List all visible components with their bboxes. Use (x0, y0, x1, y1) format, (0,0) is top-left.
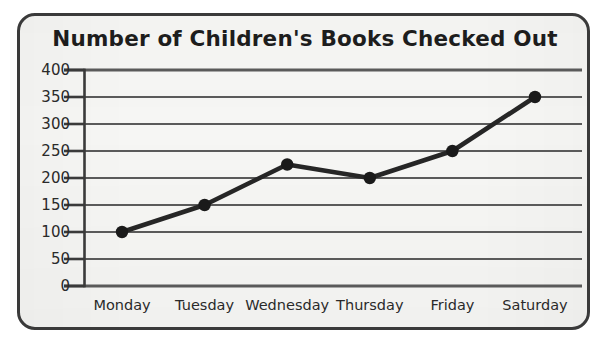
x-axis-label-monday: Monday (93, 297, 150, 313)
worksheet-canvas: Number of Children's Books Checked Out 4… (0, 0, 610, 349)
x-axis-label-friday: Friday (430, 297, 474, 313)
x-axis-label-tuesday: Tuesday (175, 297, 234, 313)
y-axis-label-400: 400 (26, 63, 70, 78)
y-axis-label-50: 50 (26, 252, 70, 267)
y-axis-label-300: 300 (26, 117, 70, 132)
paper-texture (20, 16, 587, 327)
x-axis-label-thursday: Thursday (336, 297, 403, 313)
y-axis-label-350: 350 (26, 90, 70, 105)
chart-title: Number of Children's Books Checked Out (0, 26, 610, 51)
y-axis-label-100: 100 (26, 225, 70, 240)
x-axis-label-saturday: Saturday (502, 297, 567, 313)
y-axis-label-200: 200 (26, 171, 70, 186)
y-axis-label-150: 150 (26, 198, 70, 213)
y-axis-label-250: 250 (26, 144, 70, 159)
y-axis-label-0: 0 (26, 279, 70, 294)
x-axis-label-wednesday: Wednesday (245, 297, 329, 313)
chart-frame (17, 13, 590, 330)
